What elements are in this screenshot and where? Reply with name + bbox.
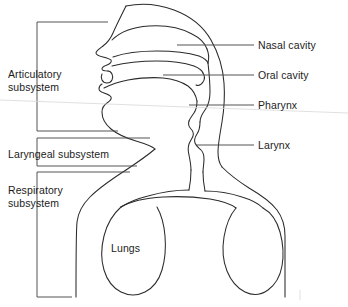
- larynx-outline: [195, 122, 204, 172]
- pharynx-rear-wall: [200, 63, 210, 122]
- right-lung-outline: [223, 208, 283, 294]
- label-lungs: Lungs: [111, 242, 140, 255]
- label-respiratory-subsystem: Respiratory subsystem: [8, 184, 63, 209]
- facial-profile-outline: [96, 6, 126, 71]
- right-shoulder-contour: [222, 167, 285, 297]
- nasal-cavity-roof: [112, 26, 207, 49]
- label-oral-cavity: Oral cavity: [258, 69, 309, 82]
- lower-lip-chin-outline: [99, 84, 155, 149]
- bronchi-arch: [121, 190, 189, 207]
- left-shoulder-contour: [76, 149, 155, 297]
- label-nasal-cavity: Nasal cavity: [258, 39, 316, 52]
- trachea-left-wall: [189, 170, 191, 190]
- tongue-outline: [104, 78, 197, 101]
- hard-palate-outline: [112, 61, 203, 73]
- label-laryngeal-subsystem: Laryngeal subsystem: [8, 148, 109, 161]
- tongue-root-outline: [189, 101, 197, 121]
- label-articulatory-subsystem: Articulatory subsystem: [8, 68, 62, 93]
- trachea-right-wall: [203, 172, 205, 191]
- label-pharynx: Pharynx: [258, 99, 297, 112]
- label-larynx: Larynx: [258, 139, 290, 152]
- speech-anatomy-diagram: Nasal cavity Oral cavity Pharynx Larynx …: [0, 0, 348, 307]
- upper-lip-outline: [101, 71, 113, 83]
- pharynx-front-wall: [188, 121, 193, 170]
